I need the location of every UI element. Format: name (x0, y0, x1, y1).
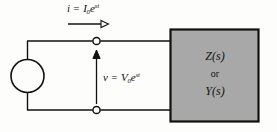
current-equation-label: i = I0est (67, 3, 99, 15)
impedance-label: Z(s) (170, 50, 260, 62)
admittance-label: Y(s) (170, 85, 260, 97)
bottom-terminal-node (93, 106, 100, 113)
current-exp-superscript: st (95, 2, 100, 9)
voltage-arrow (93, 50, 100, 104)
voltage-equals: = (108, 71, 121, 83)
circuit-figure: i = I0est v = V0est Z(s) or Y(s) (0, 0, 277, 132)
or-connector-label: or (170, 69, 260, 79)
current-equals: = (70, 2, 83, 14)
voltage-equation-label: v = V0est (103, 72, 140, 84)
voltage-exp-superscript: st (135, 71, 140, 78)
current-arrow (68, 20, 109, 27)
top-terminal-node (93, 37, 100, 44)
voltage-source-circle (11, 60, 44, 93)
circuit-schematic-svg (0, 0, 277, 132)
